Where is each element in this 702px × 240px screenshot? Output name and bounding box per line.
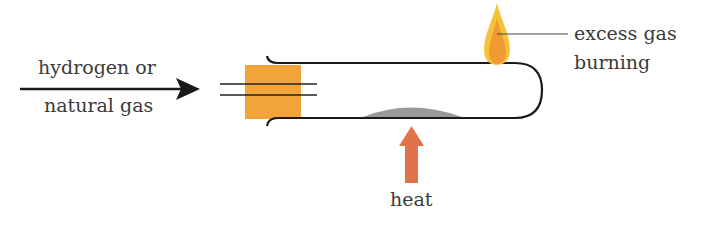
inlet-label: hydrogen or (38, 55, 156, 80)
flame-label-line2: burning (574, 50, 677, 75)
flame-label-line1: excess gas (574, 21, 677, 46)
inlet-label-2: natural gas (44, 93, 153, 118)
flame-label: excess gas burning (574, 21, 677, 75)
rubber-stopper (245, 65, 301, 119)
heat-label: heat (390, 187, 432, 212)
inlet-label-line2: natural gas (44, 93, 153, 118)
heat-arrow (399, 126, 424, 183)
metal-oxide-powder (363, 108, 462, 118)
inlet-label-line1: hydrogen or (38, 55, 156, 80)
